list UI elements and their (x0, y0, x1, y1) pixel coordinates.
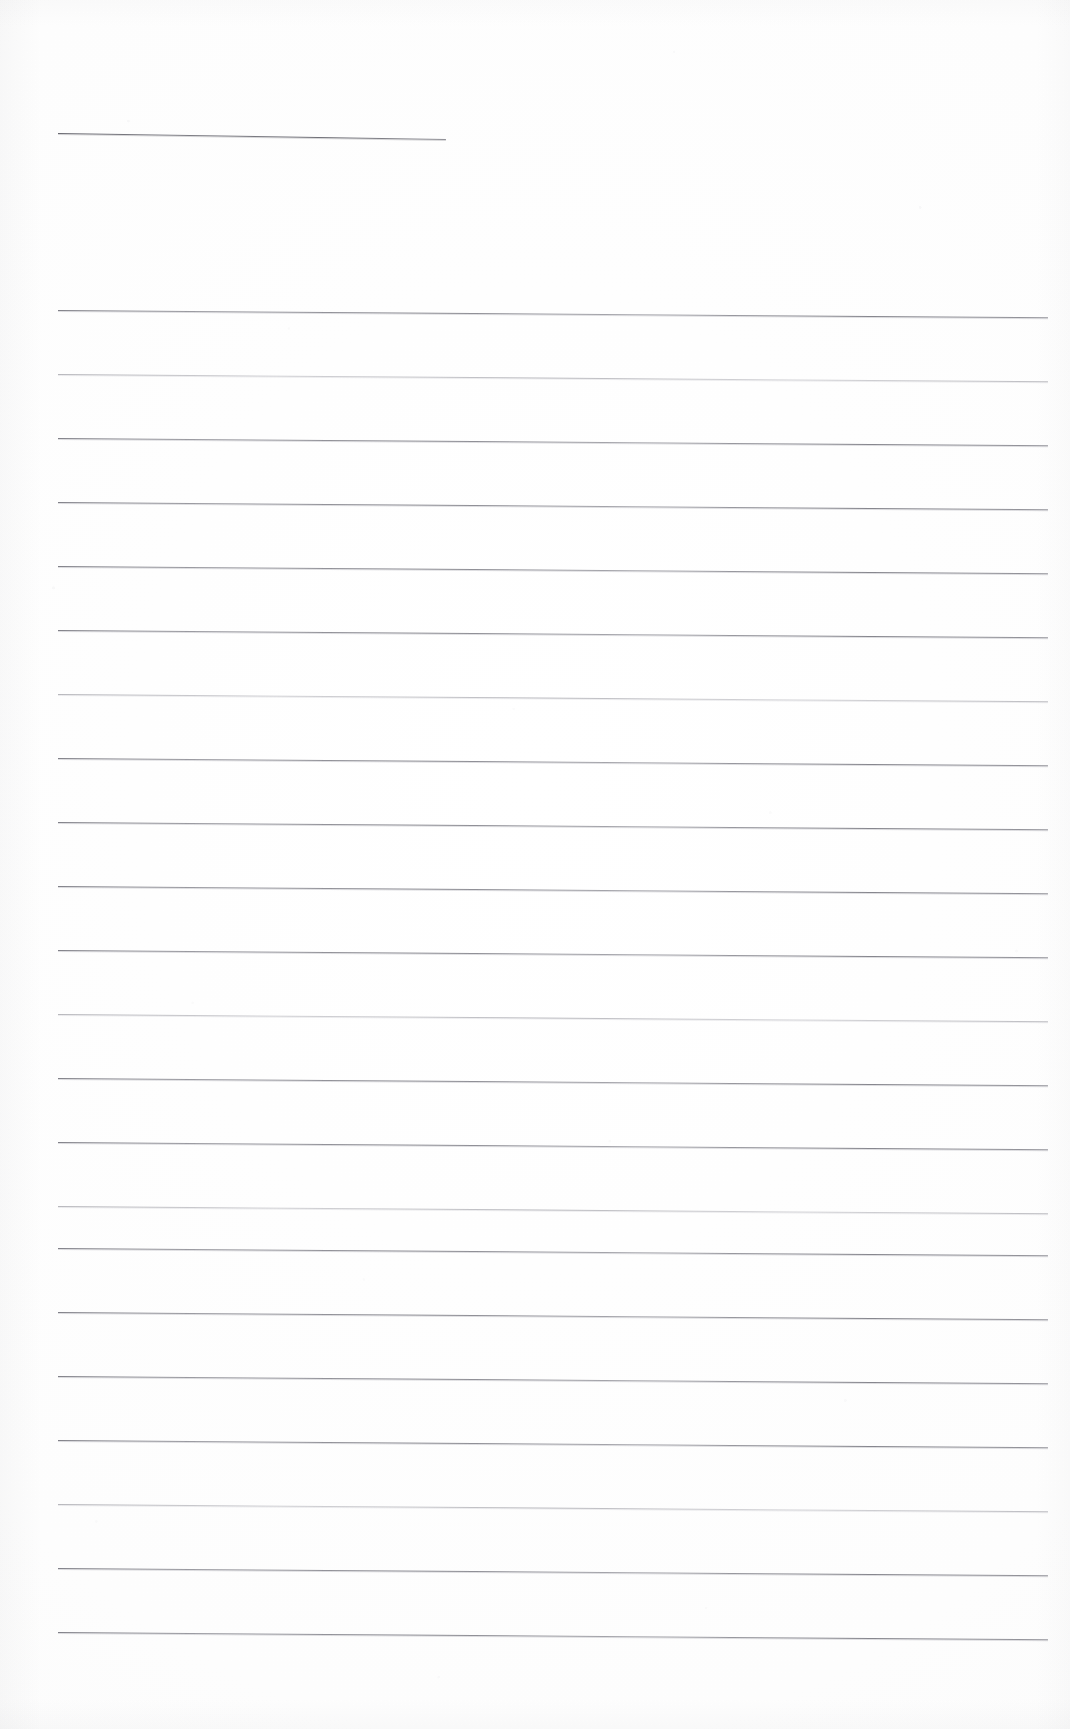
paper-surface (0, 0, 1070, 1729)
scanned-page (0, 0, 1070, 1729)
